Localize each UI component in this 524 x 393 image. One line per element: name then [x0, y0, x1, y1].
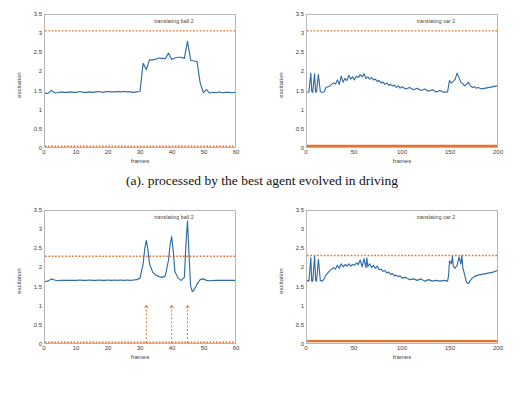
y-tick-label: 3.5 — [16, 11, 42, 17]
y-tick-label: 3 — [16, 226, 42, 232]
y-tick-label: 3 — [16, 30, 42, 36]
y-tick-label: 0 — [16, 145, 42, 151]
y-tick-label: 1 — [16, 107, 42, 113]
y-tick-label: 1.5 — [16, 88, 42, 94]
y-tick-label: 3.5 — [278, 11, 304, 17]
x-tick-label: 10 — [73, 149, 80, 155]
y-tick-label: 2 — [16, 264, 42, 270]
x-tick-label: 40 — [169, 149, 176, 155]
y-tick-label: 1.5 — [16, 284, 42, 290]
plot-area-top-right: translating car 2 — [306, 14, 498, 148]
y-tick-label: 0 — [278, 145, 304, 151]
x-tick-label: 0 — [42, 149, 45, 155]
y-tick-label: 3.5 — [278, 207, 304, 213]
x-tick-label: 10 — [73, 345, 80, 351]
y-tick-label: 1.5 — [278, 284, 304, 290]
y-tick-label: 2 — [278, 68, 304, 74]
x-tick-label: 30 — [137, 345, 144, 351]
panel-bottom-right: excitation 00.511.522.533.5 translating … — [262, 196, 524, 366]
x-tick-label: 0 — [42, 345, 45, 351]
y-tick-label: 2 — [16, 68, 42, 74]
x-tick-label: 30 — [137, 149, 144, 155]
x-axis-label: frames — [306, 354, 498, 360]
signal-line — [307, 73, 497, 92]
y-tick-label: 3.5 — [16, 207, 42, 213]
x-tick-label: 50 — [201, 345, 208, 351]
plot-area-bottom-left: translating ball 2 — [44, 210, 236, 344]
plot-area-top-left: translating ball 2 — [44, 14, 236, 148]
x-axis-label: frames — [44, 354, 236, 360]
x-tick-label: 60 — [233, 149, 240, 155]
plot-svg-bottom-left — [45, 211, 235, 343]
y-tick-label: 2.5 — [278, 245, 304, 251]
x-tick-label: 20 — [105, 345, 112, 351]
x-tick-label: 50 — [351, 149, 358, 155]
y-axis-ticks-top-left: 00.511.522.533.5 — [14, 14, 42, 148]
caption-a: (a). processed by the best agent evolved… — [0, 173, 524, 189]
signal-line — [307, 256, 497, 284]
y-tick-label: 0 — [278, 341, 304, 347]
y-tick-label: 3 — [278, 30, 304, 36]
y-tick-label: 1 — [16, 303, 42, 309]
x-tick-label: 20 — [105, 149, 112, 155]
y-tick-label: 2.5 — [16, 49, 42, 55]
x-tick-label: 40 — [169, 345, 176, 351]
panel-bottom-left: excitation 00.511.522.533.5 translating … — [0, 196, 262, 366]
x-tick-label: 100 — [397, 149, 407, 155]
panel-top-right: excitation 00.511.522.533.5 translating … — [262, 0, 524, 170]
plot-svg-bottom-right — [307, 211, 497, 343]
y-tick-label: 0 — [16, 341, 42, 347]
y-tick-label: 0.5 — [278, 126, 304, 132]
figure-container: excitation 00.511.522.533.5 translating … — [0, 0, 524, 393]
x-tick-label: 200 — [493, 345, 503, 351]
x-axis-label: frames — [44, 158, 236, 164]
y-tick-label: 0.5 — [278, 322, 304, 328]
x-tick-label: 50 — [351, 345, 358, 351]
y-axis-ticks-top-right: 00.511.522.533.5 — [276, 14, 304, 148]
panel-top-left: excitation 00.511.522.533.5 translating … — [0, 0, 262, 170]
signal-line — [45, 41, 235, 93]
y-tick-label: 1 — [278, 107, 304, 113]
x-axis-label: frames — [306, 158, 498, 164]
plot-svg-top-left — [45, 15, 235, 147]
y-axis-ticks-bottom-right: 00.511.522.533.5 — [276, 210, 304, 344]
x-tick-label: 150 — [445, 345, 455, 351]
x-tick-label: 0 — [304, 345, 307, 351]
x-tick-label: 150 — [445, 149, 455, 155]
y-tick-label: 1 — [278, 303, 304, 309]
y-tick-label: 3 — [278, 226, 304, 232]
y-axis-ticks-bottom-left: 00.511.522.533.5 — [14, 210, 42, 344]
x-tick-label: 50 — [201, 149, 208, 155]
figure-row-b: excitation 00.511.522.533.5 translating … — [0, 196, 524, 393]
y-tick-label: 2 — [278, 264, 304, 270]
figure-row-a: excitation 00.511.522.533.5 translating … — [0, 0, 524, 196]
y-tick-label: 2.5 — [278, 49, 304, 55]
plot-svg-top-right — [307, 15, 497, 147]
plot-area-bottom-right: translating car 2 — [306, 210, 498, 344]
y-tick-label: 1.5 — [278, 88, 304, 94]
x-tick-label: 100 — [397, 345, 407, 351]
y-tick-label: 0.5 — [16, 126, 42, 132]
y-tick-label: 2.5 — [16, 245, 42, 251]
x-tick-label: 0 — [304, 149, 307, 155]
y-tick-label: 0.5 — [16, 322, 42, 328]
x-tick-label: 200 — [493, 149, 503, 155]
x-tick-label: 60 — [233, 345, 240, 351]
